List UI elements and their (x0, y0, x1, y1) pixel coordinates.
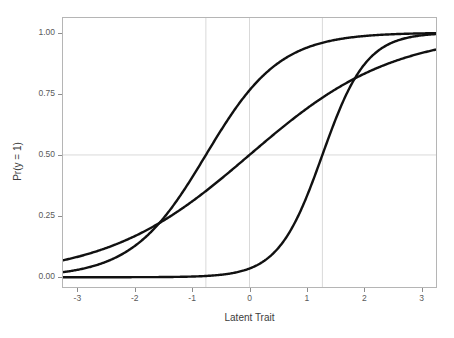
chart-figure: 0.000.250.500.751.00 -3-2-10123 Pr(y = 1… (0, 0, 454, 338)
x-tick-label: 2 (354, 294, 374, 303)
x-tick-mark (135, 288, 136, 292)
x-tick-mark (307, 288, 308, 292)
x-tick-label: 0 (240, 294, 260, 303)
x-tick-mark (192, 288, 193, 292)
y-axis-label: Pr(y = 1) (12, 107, 23, 217)
gridlines-group (63, 18, 436, 287)
x-tick-mark (422, 288, 423, 292)
y-tick-mark (58, 155, 62, 156)
y-tick-label: 0.25 (25, 211, 55, 220)
x-tick-mark (250, 288, 251, 292)
x-tick-label: 3 (412, 294, 432, 303)
x-tick-label: -3 (67, 294, 87, 303)
y-tick-mark (58, 216, 62, 217)
y-axis-label-wrap: Pr(y = 1) (0, 110, 17, 220)
y-tick-label: 0.50 (25, 150, 55, 159)
x-tick-label: -1 (182, 294, 202, 303)
y-tick-mark (58, 94, 62, 95)
x-tick-label: 1 (297, 294, 317, 303)
plot-canvas (63, 18, 436, 287)
plot-panel (62, 17, 437, 288)
y-tick-label: 1.00 (25, 28, 55, 37)
x-tick-mark (77, 288, 78, 292)
y-tick-mark (58, 33, 62, 34)
x-tick-label: -2 (125, 294, 145, 303)
x-axis-label: Latent Trait (62, 312, 437, 323)
x-tick-mark (364, 288, 365, 292)
y-tick-mark (58, 277, 62, 278)
y-tick-label: 0.75 (25, 89, 55, 98)
y-tick-label: 0.00 (25, 272, 55, 281)
